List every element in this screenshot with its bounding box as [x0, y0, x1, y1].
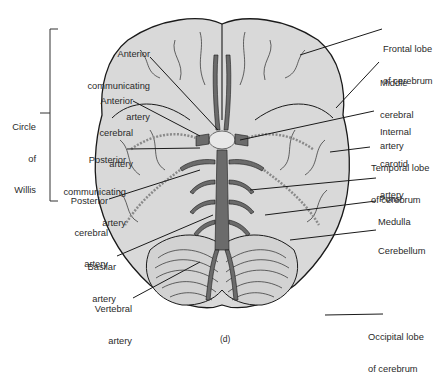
- label-line: Circle: [0, 122, 36, 133]
- label-line: Middle: [380, 78, 440, 89]
- label-line: Temporal lobe: [371, 163, 446, 174]
- label-line: Posterior: [30, 196, 108, 207]
- label-vertebral-artery: Vertebral artery: [70, 283, 132, 367]
- label-line: Vertebral: [70, 304, 132, 315]
- label-line: Anterior: [60, 96, 133, 107]
- label-line: of cerebrum: [368, 364, 446, 375]
- label-line: Internal: [380, 127, 440, 138]
- label-line: artery: [70, 336, 132, 347]
- label-line: Occipital lobe: [368, 332, 446, 343]
- label-line: Frontal lobe: [383, 44, 446, 55]
- label-line: Posterior: [30, 155, 126, 166]
- label-cerebellum: Cerebellum: [378, 225, 443, 278]
- label-line: Basilar: [60, 262, 116, 273]
- label-line: cerebral: [30, 228, 108, 239]
- panel-label: (d): [220, 334, 240, 345]
- label-line: Anterior: [60, 49, 150, 60]
- label-occipital-lobe: Occipital lobe of cerebrum: [368, 311, 446, 376]
- label-line: Cerebellum: [378, 246, 443, 257]
